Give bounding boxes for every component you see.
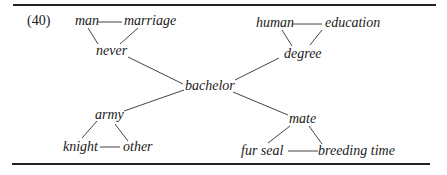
node-man: man	[75, 13, 99, 29]
edge-human-degree	[282, 30, 292, 46]
edge-degree-bachelor	[235, 58, 279, 80]
node-education: education	[325, 15, 380, 31]
node-knight: knight	[63, 139, 98, 155]
node-mate: mate	[289, 111, 316, 127]
example-number: (40)	[27, 13, 50, 29]
node-army: army	[95, 107, 124, 123]
edge-mate-bachelor	[233, 92, 288, 115]
edge-man-never	[88, 28, 98, 44]
edge-mate-fur-seal	[268, 126, 290, 143]
edge-army-knight	[82, 121, 97, 138]
edge-never-bachelor	[128, 57, 183, 84]
node-fur-seal: fur seal	[241, 143, 283, 159]
node-marriage: marriage	[124, 13, 176, 29]
edge-marriage-never	[120, 28, 138, 44]
edge-education-degree	[310, 30, 322, 45]
node-bachelor: bachelor	[185, 78, 235, 94]
node-breeding-time: breeding time	[318, 143, 395, 159]
node-degree: degree	[284, 46, 322, 62]
edge-army-bachelor	[124, 90, 184, 111]
node-human: human	[256, 15, 294, 31]
node-never: never	[96, 43, 127, 59]
edge-mate-breeding-time	[309, 126, 322, 144]
node-other: other	[123, 139, 153, 155]
